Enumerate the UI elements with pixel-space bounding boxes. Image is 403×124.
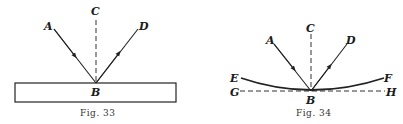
figure-caption: Fig. 34 [296, 108, 332, 118]
label-b: B [90, 86, 100, 99]
diagram-canvas: A C D B Fig. 33 A C D E F G H B Fig. 34 [0, 0, 403, 124]
label-a: A [265, 34, 275, 47]
reflected-arrow-icon [311, 66, 330, 91]
label-b: B [305, 94, 315, 107]
label-f: F [383, 72, 393, 85]
label-h: H [385, 86, 397, 99]
label-c: C [91, 5, 100, 18]
label-e: E [229, 72, 239, 85]
incident-arrow-icon [54, 29, 75, 56]
figure-33: A C D B Fig. 33 [15, 5, 176, 118]
label-a: A [43, 20, 53, 33]
label-d: D [138, 20, 149, 33]
reflected-arrow-icon [96, 53, 119, 83]
label-d: D [345, 34, 356, 47]
figure-caption: Fig. 33 [80, 108, 116, 118]
figure-34: A C D E F G H B Fig. 34 [229, 22, 397, 118]
label-g: G [230, 86, 239, 99]
incident-arrow-icon [274, 44, 294, 69]
label-c: C [306, 22, 315, 35]
